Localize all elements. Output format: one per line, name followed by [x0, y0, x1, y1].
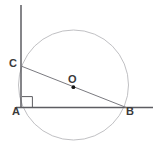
point-label-b: B: [126, 106, 134, 117]
circle-shape: [19, 30, 129, 140]
point-label-o: O: [68, 74, 77, 85]
center-point-dot-icon: [72, 85, 76, 89]
geometry-figure: A B C O: [0, 0, 156, 147]
right-angle-marker-icon: [22, 97, 32, 108]
point-label-c: C: [9, 58, 17, 69]
point-label-a: A: [12, 106, 20, 117]
figure-canvas: [0, 0, 156, 147]
